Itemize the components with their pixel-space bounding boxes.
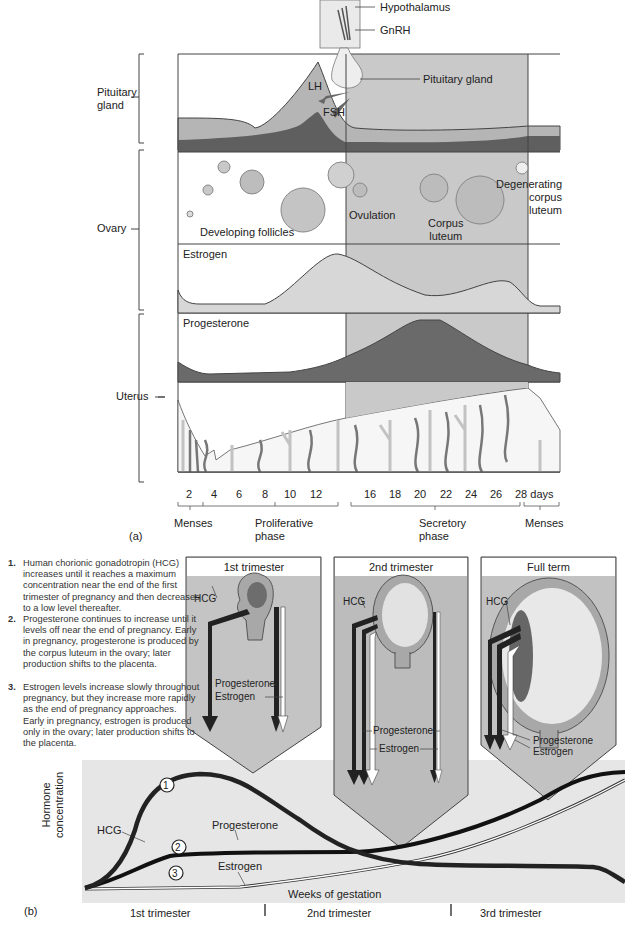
pregnancy-graphics [0,0,625,928]
hcg-label-2nd: HCG [343,596,365,608]
curve-marker-2: 2 [175,841,181,854]
estrogen-label-1st: Estrogen [215,691,255,703]
progesterone-label-1st: Progesterone [215,678,275,690]
hcg-curve-label: HCG [97,824,121,837]
progesterone-curve-label: Progesterone [212,819,278,832]
hcg-label-full: HCG [486,596,508,608]
curve-marker-3: 3 [172,867,178,880]
trimester-label-2: 2nd trimester [307,907,371,920]
note-2: 2. Progesterone continues to increase un… [10,614,200,670]
hcg-label-1st: HCG [194,593,216,605]
estrogen-label-full: Estrogen [533,746,573,758]
x-axis-label: Weeks of gestation [288,888,381,901]
stage-title-2nd: 2nd trimester [334,561,468,574]
panel-b-label: (b) [24,905,37,918]
stage-title-1st: 1st trimester [187,561,321,574]
progesterone-label-2nd: Progesterone [373,725,433,737]
curve-marker-1: 1 [163,779,169,792]
trimester-label-3: 3rd trimester [480,907,542,920]
note-1: 1. Human chorionic gonadotropin (HCG) in… [10,558,200,614]
estrogen-label-2nd: Estrogen [379,743,419,755]
estrogen-curve-label: Estrogen [218,860,262,873]
stage-title-full-term: Full term [481,561,616,574]
y-axis-label: Hormone concentration [40,772,66,838]
trimester-label-1: 1st trimester [130,907,191,920]
note-3: 3. Estrogen levels increase slowly throu… [10,682,200,749]
